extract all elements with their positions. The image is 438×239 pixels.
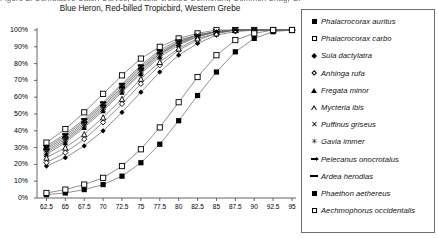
- legend-item-label: Anhinga rufa: [321, 69, 365, 78]
- y-tick-label: 30%: [2, 144, 28, 151]
- legend-item[interactable]: Pelecanus onocrotalus: [307, 151, 432, 168]
- series-phalacrocorax-auritus: [44, 27, 295, 150]
- legend-item-label: Phalacrocorax carbo: [321, 34, 392, 43]
- legend-item-label: Phalacrocorax auritus: [321, 17, 396, 26]
- filled-square-icon: [307, 19, 321, 24]
- y-tick-label: 60%: [2, 93, 28, 100]
- chart-legend: Phalacrocorax auritusPhalacrocorax carbo…: [301, 9, 435, 233]
- y-tick-label: 90%: [2, 43, 28, 50]
- filled-diamond-icon: [307, 54, 321, 58]
- chart-title-line2: Blue Heron, Red-billed Tropicbird, Weste…: [0, 4, 300, 14]
- legend-item-label: Sula dactylatra: [321, 51, 372, 60]
- legend-item[interactable]: Mycteria ibis: [307, 99, 432, 116]
- legend-item-label: Phaethon aethereus: [321, 189, 390, 198]
- dash-icon: [307, 175, 321, 177]
- cumulative-catch-curves-svg: [0, 14, 300, 224]
- asterisk-icon: ✳: [307, 138, 321, 146]
- x-tick-label: 95: [281, 203, 303, 210]
- legend-item[interactable]: Phalacrocorax auritus: [307, 13, 432, 30]
- legend-item[interactable]: Ardea herodias: [307, 168, 432, 185]
- series-gavia-immer: [43, 27, 295, 153]
- open-triangle-icon: [307, 105, 321, 110]
- cross-x-icon: ✕: [307, 121, 321, 129]
- open-square-icon: [307, 208, 321, 213]
- open-diamond-icon: [307, 71, 321, 75]
- legend-item-label: Ardea herodias: [321, 172, 373, 181]
- filled-triangle-icon: [307, 88, 321, 93]
- y-tick-label: 80%: [2, 60, 28, 67]
- open-square-icon: [307, 36, 321, 41]
- legend-item[interactable]: ✕Puffinus griseus: [307, 116, 432, 133]
- legend-item[interactable]: ✳Gavia immer: [307, 133, 432, 150]
- legend-item-label: Mycteria ibis: [321, 103, 364, 112]
- y-tick-label: 70%: [2, 76, 28, 83]
- legend-item-label: Puffinus griseus: [321, 120, 376, 129]
- legend-item[interactable]: Anhinga rufa: [307, 65, 432, 82]
- chart-page: Figure 2. Cumulative Catch Curves, Doubl…: [0, 0, 438, 239]
- plot-area: 0%10%20%30%40%50%60%70%80%90%100% 62.565…: [0, 14, 300, 224]
- legend-item[interactable]: Phaethon aethereus: [307, 185, 432, 202]
- legend-item-label: Aechmophorus occidentalis: [321, 206, 415, 215]
- legend-item-label: Gavia immer: [321, 137, 365, 146]
- legend-list: Phalacrocorax auritusPhalacrocorax carbo…: [307, 13, 432, 219]
- legend-item[interactable]: Aechmophorus occidentalis: [307, 202, 432, 219]
- series-pelecanus-onocrotalus: [43, 30, 295, 149]
- legend-item[interactable]: Sula dactylatra: [307, 47, 432, 64]
- legend-item-label: Fregata minor: [321, 86, 369, 95]
- y-tick-label: 40%: [2, 127, 28, 134]
- legend-item[interactable]: Fregata minor: [307, 82, 432, 99]
- dash-arrow-icon: [307, 158, 321, 160]
- y-tick-label: 100%: [2, 26, 28, 33]
- chart-title: Figure 2. Cumulative Catch Curves, Doubl…: [0, 0, 300, 13]
- y-tick-label: 50%: [2, 110, 28, 117]
- y-tick-label: 20%: [2, 160, 28, 167]
- y-tick-label: 10%: [2, 177, 28, 184]
- filled-square-icon: [307, 191, 321, 196]
- chart-title-line1: Figure 2. Cumulative Catch Curves, Doubl…: [0, 0, 300, 4]
- legend-item[interactable]: Phalacrocorax carbo: [307, 30, 432, 47]
- y-tick-label: 0%: [2, 194, 28, 201]
- legend-item-label: Pelecanus onocrotalus: [321, 155, 399, 164]
